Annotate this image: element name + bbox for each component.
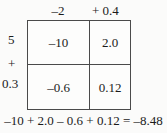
- grid-cell-top-right: 2.0: [90, 21, 130, 65]
- column-header-right: + 0.4: [89, 3, 131, 18]
- grid-cell-bottom-left: –0.6: [28, 65, 90, 109]
- sum-equation: –10 + 2.0 – 0.6 + 0.12 = –8.48: [0, 113, 167, 129]
- row-label-second: 0.3: [2, 77, 18, 91]
- grid-cell-bottom-right: 0.12: [90, 65, 130, 109]
- row-label-first: 5: [8, 33, 15, 47]
- grid-cell-top-left: –10: [28, 21, 90, 65]
- row-label-operator: +: [8, 57, 15, 71]
- area-model-diagram: –2 + 0.4 5 + 0.3 –10 2.0 –0.6 0.12 –10 +…: [0, 0, 167, 133]
- multiplication-grid: –10 2.0 –0.6 0.12: [27, 20, 131, 110]
- column-header-left: –2: [27, 3, 89, 18]
